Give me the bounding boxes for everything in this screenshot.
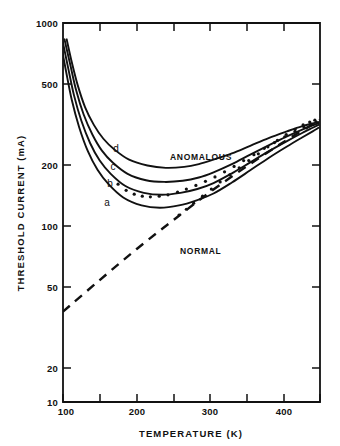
normal-data-point xyxy=(257,152,260,155)
anomalous-data-b-point xyxy=(263,147,266,150)
normal-data-point xyxy=(266,145,269,148)
anomalous-data-b-point xyxy=(158,195,161,198)
anomalous-data-b-point xyxy=(213,175,216,178)
threshold-current-vs-temperature-chart: 1000 500 200 100 50 20 10 100 xyxy=(0,0,340,446)
annotation-normal: NORMAL xyxy=(180,246,222,256)
y-tick-1000: 1000 xyxy=(36,18,58,29)
anomalous-data-b-point xyxy=(141,195,144,198)
anomalous-data-b-point xyxy=(194,184,197,187)
anomalous-data-b-point xyxy=(166,193,169,196)
y-tick-500: 500 xyxy=(42,79,58,90)
normal-data-point xyxy=(313,119,316,122)
x-tick-100: 100 xyxy=(58,406,74,417)
normal-data-point xyxy=(201,195,204,198)
y-tick-200: 200 xyxy=(42,160,58,171)
normal-data-point xyxy=(228,173,231,176)
anomalous-data-b-point xyxy=(252,153,255,156)
anomalous-data-b-point xyxy=(204,180,207,183)
normal-data-point xyxy=(293,128,296,131)
normal-data-point xyxy=(276,139,279,142)
y-tick-50: 50 xyxy=(47,282,58,293)
normal-data-point xyxy=(285,133,288,136)
y-tick-10: 10 xyxy=(47,397,58,408)
anomalous-data-b-point xyxy=(242,159,245,162)
normal-data-point xyxy=(247,159,250,162)
x-tick-400: 400 xyxy=(276,406,292,417)
normal-data-point xyxy=(177,213,180,216)
anomalous-data-b-point xyxy=(133,193,136,196)
normal-data-point xyxy=(219,180,222,183)
curve-label-a: a xyxy=(104,197,110,208)
curve-label-c: c xyxy=(111,161,116,172)
anomalous-data-b-point xyxy=(232,165,235,168)
y-tick-20: 20 xyxy=(47,363,58,374)
x-tick-200: 200 xyxy=(129,406,145,417)
normal-data-point xyxy=(308,120,311,123)
normal-data-point xyxy=(185,208,188,211)
normal-data-point xyxy=(302,123,305,126)
normal-data-point xyxy=(210,187,213,190)
anomalous-data-b-point xyxy=(185,187,188,190)
anomalous-data-b-point xyxy=(125,189,128,192)
anomalous-data-b-point xyxy=(273,141,276,144)
x-axis-title: TEMPERATURE (K) xyxy=(139,428,243,439)
anomalous-data-b-point xyxy=(176,191,179,194)
y-tick-100: 100 xyxy=(42,221,58,232)
normal-data-point xyxy=(238,166,241,169)
x-tick-300: 300 xyxy=(202,406,218,417)
curve-label-d: d xyxy=(113,143,119,154)
anomalous-data-b-point xyxy=(149,195,152,198)
anomalous-data-b-point xyxy=(116,183,119,186)
normal-data-point xyxy=(192,202,195,205)
anomalous-data-b-point xyxy=(223,170,226,173)
curve-label-b: b xyxy=(107,178,113,189)
annotation-anomalous: ANOMALOUS xyxy=(170,152,232,162)
figure-container: 1000 500 200 100 50 20 10 100 xyxy=(0,0,340,446)
y-axis-title: THRESHOLD CURRENT (mA) xyxy=(15,135,26,292)
